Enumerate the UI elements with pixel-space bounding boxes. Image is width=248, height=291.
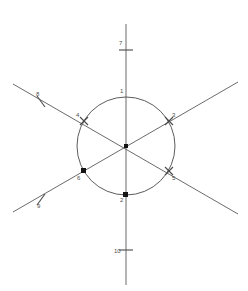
point-label-2: 2 [120, 197, 123, 203]
point-label-6: 6 [77, 175, 80, 181]
point-label-1: 1 [120, 88, 123, 94]
point-label-3: 3 [172, 112, 175, 118]
point-label-5: 5 [172, 175, 175, 181]
cross-marker-3 [165, 117, 173, 125]
geometry-figure-canvas: 1 2 3 4 5 6 7 8 9 10 [0, 0, 248, 291]
tick-label-10: 10 [114, 248, 121, 254]
point-label-4: 4 [76, 112, 79, 118]
geometry-figure-svg [0, 0, 248, 291]
tick-label-8: 8 [36, 91, 39, 97]
tick-label-7: 7 [119, 40, 122, 46]
line-group [13, 24, 238, 285]
square-marker-group [81, 168, 128, 197]
tick-label-9: 9 [37, 203, 40, 209]
center-point-marker [124, 144, 128, 148]
square-marker-2 [123, 192, 128, 197]
tick-group [37, 50, 133, 250]
square-marker-6 [81, 168, 86, 173]
cross-marker-4 [80, 117, 88, 125]
